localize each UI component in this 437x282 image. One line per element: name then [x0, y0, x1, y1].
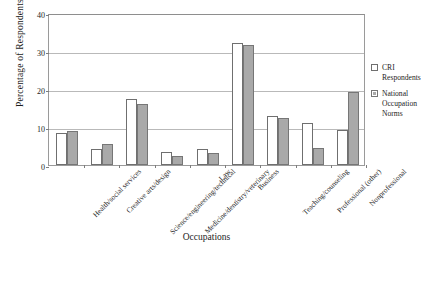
bar [232, 43, 243, 165]
legend-swatch-icon [371, 90, 378, 97]
bar-group [197, 15, 219, 165]
legend-item: National Occupation Norms [371, 89, 435, 118]
bar [172, 156, 183, 166]
bar [278, 118, 289, 165]
legend-item: CRI Respondents [371, 63, 435, 82]
bar-group [267, 15, 289, 165]
bar [161, 152, 172, 165]
bar [91, 149, 102, 165]
y-axis-tick-label: 20 [37, 87, 45, 96]
bar [197, 149, 208, 165]
bar [267, 116, 278, 165]
bar-group [91, 15, 113, 165]
y-axis-title: Percentage of Respondents [15, 0, 25, 133]
legend-label: National Occupation Norms [382, 89, 435, 118]
chart-legend: CRI RespondentsNational Occupation Norms [371, 63, 435, 126]
bar [102, 144, 113, 165]
y-axis-tick-label: 0 [41, 163, 45, 172]
y-axis-tick-label: 10 [37, 125, 45, 134]
x-axis-tick-mark [366, 165, 367, 168]
x-axis-title: Occupations [48, 232, 365, 242]
bar [337, 130, 348, 165]
x-axis-tick-label: Health/social services [91, 167, 143, 219]
bar-group [302, 15, 324, 165]
bar-series-container [49, 15, 364, 165]
bar [302, 123, 313, 165]
y-axis-tick-label: 40 [37, 11, 45, 20]
bar [67, 131, 78, 165]
bar-group [126, 15, 148, 165]
bar [56, 133, 67, 165]
legend-swatch-icon [371, 64, 378, 71]
x-axis-tick-label: Medicine/dentistry/veterinary [203, 167, 271, 235]
bar [137, 104, 148, 165]
bar [126, 99, 137, 166]
bar-group [337, 15, 359, 165]
bar-chart-figure: Percentage of Respondents 010203040 Heal… [0, 0, 437, 282]
bar-group [56, 15, 78, 165]
bar-group [232, 15, 254, 165]
bar [313, 148, 324, 165]
y-axis-tick-label: 30 [37, 49, 45, 58]
bar-group [161, 15, 183, 165]
legend-label: CRI Respondents [382, 63, 435, 82]
bar [243, 45, 254, 165]
plot-area: 010203040 [48, 14, 365, 166]
x-axis-tick-labels: Health/social servicesCreative arts/desi… [48, 167, 365, 229]
bar [208, 153, 219, 165]
bar [348, 92, 359, 165]
